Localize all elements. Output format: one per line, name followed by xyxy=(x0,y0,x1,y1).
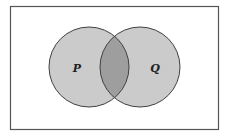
set-p-label: P xyxy=(72,62,82,75)
set-q-label: Q xyxy=(150,62,160,75)
venn-diagram: P Q xyxy=(0,0,230,136)
